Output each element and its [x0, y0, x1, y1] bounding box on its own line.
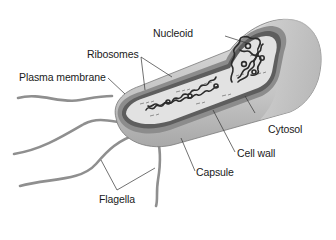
label-capsule: Capsule [196, 167, 234, 178]
flagellum-1 [18, 96, 112, 101]
label-plasma-membrane: Plasma membrane [19, 72, 106, 83]
leader-flagella [101, 160, 155, 190]
leader-capsule [181, 138, 195, 171]
leader-plasma-membrane [108, 78, 125, 94]
leader-ribosomes-2 [141, 57, 172, 77]
label-cell-wall: Cell wall [237, 148, 275, 159]
label-flagella: Flagella [99, 194, 135, 205]
flagellum-3 [20, 134, 138, 186]
label-cytosol: Cytosol [268, 124, 302, 135]
label-ribosomes: Ribosomes [87, 49, 139, 60]
label-nucleoid: Nucleoid [153, 28, 193, 39]
flagellum-2 [14, 120, 118, 154]
